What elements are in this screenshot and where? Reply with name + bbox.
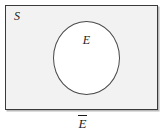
figure-caption: E	[0, 114, 165, 132]
venn-diagram-figure: S E E	[0, 0, 165, 140]
sample-space-label: S	[14, 10, 20, 22]
complement-label: E	[78, 117, 88, 131]
event-circle: E	[53, 21, 120, 95]
sample-space-rectangle: S E	[5, 5, 158, 110]
event-label: E	[83, 34, 90, 46]
